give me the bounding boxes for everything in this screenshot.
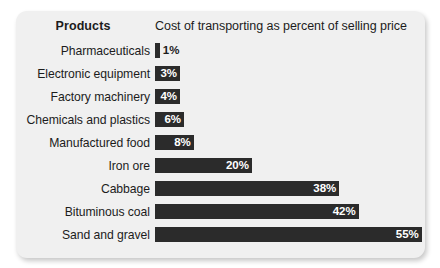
row-label: Pharmaceuticals <box>16 44 150 58</box>
bar-value-label: 38% <box>313 183 336 195</box>
bar: 8% <box>155 135 194 150</box>
row-label: Electronic equipment <box>16 67 150 81</box>
chart-row: Bituminous coal42% <box>16 202 425 225</box>
bar-track: 55% <box>155 227 425 242</box>
bar-value-label: 4% <box>160 91 177 103</box>
bar-track: 8% <box>155 135 425 150</box>
bar-track: 4% <box>155 89 425 104</box>
bar-value-label: 6% <box>164 114 181 126</box>
chart-row: Factory machinery4% <box>16 87 425 110</box>
row-label: Factory machinery <box>16 90 150 104</box>
bar-chart-rows: Pharmaceuticals1%Electronic equipment3%F… <box>16 41 425 248</box>
row-label: Iron ore <box>16 159 150 173</box>
chart-row: Cabbage38% <box>16 179 425 202</box>
row-label: Cabbage <box>16 182 150 196</box>
chart-row: Pharmaceuticals1% <box>16 41 425 64</box>
bar: 38% <box>155 181 339 196</box>
bar-track: 42% <box>155 204 425 219</box>
chart-row: Manufactured food8% <box>16 133 425 156</box>
bar: 42% <box>155 204 359 219</box>
bar: 1% <box>155 43 160 58</box>
bar-value-label: 1% <box>163 45 180 57</box>
bar-value-label: 55% <box>396 229 419 241</box>
bar-value-label: 8% <box>174 137 191 149</box>
bar: 20% <box>155 158 252 173</box>
bar-track: 20% <box>155 158 425 173</box>
chart-row: Sand and gravel55% <box>16 225 425 248</box>
bar: 4% <box>155 89 180 104</box>
bar-value-label: 42% <box>333 206 356 218</box>
bar: 3% <box>155 66 180 81</box>
bar-value-label: 3% <box>160 68 177 80</box>
row-label: Chemicals and plastics <box>16 113 150 127</box>
chart-card: Products Cost of transporting as percent… <box>16 11 425 258</box>
bar: 6% <box>155 112 184 127</box>
row-label: Bituminous coal <box>16 205 150 219</box>
row-label: Sand and gravel <box>16 228 150 242</box>
row-label: Manufactured food <box>16 136 150 150</box>
bar-track: 38% <box>155 181 425 196</box>
bar-value-label: 20% <box>226 160 249 172</box>
chart-header: Products Cost of transporting as percent… <box>16 19 425 39</box>
column-header-products: Products <box>16 19 150 33</box>
chart-row: Chemicals and plastics6% <box>16 110 425 133</box>
chart-row: Electronic equipment3% <box>16 64 425 87</box>
column-header-measure: Cost of transporting as percent of selli… <box>155 19 407 33</box>
bar-track: 3% <box>155 66 425 81</box>
bar-track: 1% <box>155 43 425 58</box>
bar: 55% <box>155 227 422 242</box>
bar-track: 6% <box>155 112 425 127</box>
chart-row: Iron ore20% <box>16 156 425 179</box>
